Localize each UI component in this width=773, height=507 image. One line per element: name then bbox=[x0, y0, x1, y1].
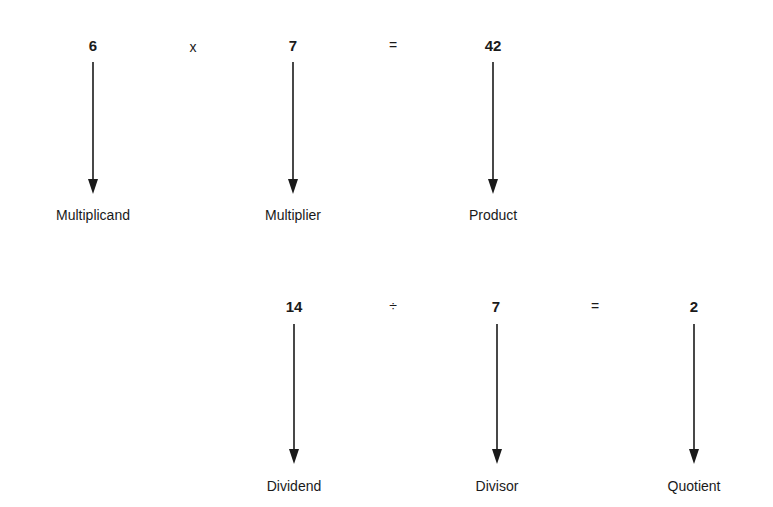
quotient-value: 2 bbox=[690, 298, 698, 315]
arrowhead-icon bbox=[88, 179, 98, 194]
multiplier-value: 7 bbox=[289, 37, 297, 54]
divide-operator: ÷ bbox=[389, 298, 397, 314]
divisor-label: Divisor bbox=[476, 478, 519, 494]
arrows-layer bbox=[0, 0, 773, 507]
arrowhead-icon bbox=[289, 449, 299, 464]
arrowhead-icon bbox=[288, 179, 298, 194]
arrowhead-icon bbox=[492, 449, 502, 464]
product-label: Product bbox=[469, 207, 517, 223]
quotient-label: Quotient bbox=[668, 478, 721, 494]
multiplicand-value: 6 bbox=[89, 37, 97, 54]
dividend-value: 14 bbox=[286, 298, 303, 315]
multiplier-label: Multiplier bbox=[265, 207, 321, 223]
equals-sign: = bbox=[389, 37, 397, 53]
arrowhead-icon bbox=[488, 179, 498, 194]
arrowhead-icon bbox=[689, 449, 699, 464]
divisor-value: 7 bbox=[492, 298, 500, 315]
product-value: 42 bbox=[485, 37, 502, 54]
multiplicand-label: Multiplicand bbox=[56, 207, 130, 223]
multiply-operator: x bbox=[190, 39, 197, 55]
dividend-label: Dividend bbox=[267, 478, 321, 494]
equals-sign: = bbox=[591, 298, 599, 314]
